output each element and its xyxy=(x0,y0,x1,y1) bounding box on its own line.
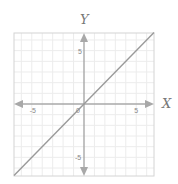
y-tick-label: -5 xyxy=(75,154,81,161)
x-tick-label: 5 xyxy=(134,107,138,114)
arrow-down-icon xyxy=(80,167,88,176)
arrow-left-icon xyxy=(14,100,23,108)
y-tick-label: 5 xyxy=(78,48,82,55)
x-tick-label: 0 xyxy=(76,107,80,114)
x-tick-label: -5 xyxy=(30,107,36,114)
coordinate-plane: -5055-5 X Y xyxy=(0,0,178,184)
arrow-up-icon xyxy=(80,33,88,42)
arrow-right-icon xyxy=(145,100,154,108)
x-axis-title: X xyxy=(161,96,172,111)
y-axis-title: Y xyxy=(80,12,90,27)
